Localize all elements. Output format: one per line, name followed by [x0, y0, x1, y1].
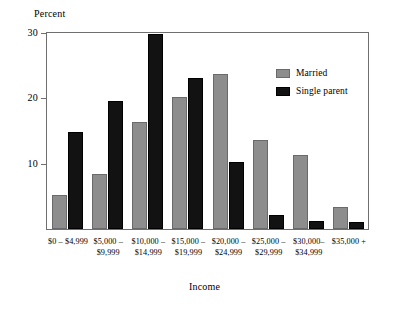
- bar-married: [92, 174, 107, 229]
- bar-group: [52, 33, 84, 229]
- y-axis-tick-label: 10: [10, 159, 38, 169]
- bar-single-parent: [108, 101, 123, 229]
- x-axis-category-label: $35,000 +: [315, 236, 383, 247]
- y-axis-tick-label-wrap: 10: [0, 159, 38, 169]
- y-axis-tick-label-wrap: 20: [0, 93, 38, 103]
- bar-single-parent: [229, 162, 244, 229]
- bar-married: [333, 207, 348, 229]
- y-axis-title: Percent: [34, 8, 65, 20]
- gray-swatch-icon: [276, 69, 290, 78]
- bar-single-parent: [148, 34, 163, 229]
- bar-single-parent: [269, 215, 284, 229]
- bar-group: [333, 33, 365, 229]
- y-axis-tick-label: 30: [10, 28, 38, 38]
- y-axis-tick-label-wrap: 30: [0, 28, 38, 38]
- legend-item-single-parent: Single parent: [276, 84, 396, 99]
- bar-single-parent: [349, 222, 364, 229]
- bar-married: [172, 97, 187, 229]
- x-axis-labels: $0 – $4,999$5,000 – $9,999$10,000 – $14,…: [40, 236, 376, 268]
- bar-single-parent: [188, 78, 203, 229]
- bar-group: [132, 33, 164, 229]
- bar-group: [172, 33, 204, 229]
- chart-legend: Married Single parent: [276, 66, 396, 102]
- legend-label: Married: [296, 68, 327, 79]
- bar-married: [253, 140, 268, 229]
- bar-married: [293, 155, 308, 229]
- bar-chart: Percent 102030 $0 – $4,999$5,000 – $9,99…: [0, 0, 409, 310]
- bar-group: [213, 33, 245, 229]
- x-axis-title: Income: [0, 281, 409, 292]
- bar-single-parent: [309, 221, 324, 229]
- y-axis-tick-label: 20: [10, 93, 38, 103]
- bar-single-parent: [68, 132, 83, 229]
- bar-group: [92, 33, 124, 229]
- bars-layer: [47, 33, 368, 229]
- legend-item-married: Married: [276, 66, 396, 81]
- bar-married: [132, 122, 147, 229]
- bar-married: [213, 74, 228, 229]
- legend-label: Single parent: [296, 86, 348, 97]
- bar-group: [253, 33, 285, 229]
- black-swatch-icon: [276, 87, 290, 96]
- bar-group: [293, 33, 325, 229]
- bar-married: [52, 195, 67, 229]
